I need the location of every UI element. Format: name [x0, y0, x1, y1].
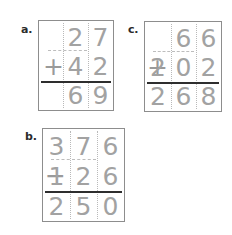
problem-b-operand-1-digit-0: 3: [43, 133, 70, 159]
problem-b-answer: 2 5 0: [43, 193, 124, 219]
problem-b-operand-1: 3 7 6: [43, 133, 124, 159]
problem-b-operand-2-digit-1: 2: [70, 163, 97, 189]
problem-b-operand-2-digit-2: 6: [97, 163, 124, 189]
problem-b: b. 3 7 6 − 1 2 6 2 5: [0, 0, 232, 235]
problem-b-operand-1-digit-1: 7: [70, 133, 97, 159]
problem-b-label: b.: [25, 131, 37, 142]
problem-b-answer-digit-2: 0: [97, 193, 124, 219]
problem-b-answer-digit-0: 2: [43, 193, 70, 219]
problem-b-answer-digit-1: 5: [70, 193, 97, 219]
problem-b-box: 3 7 6 − 1 2 6 2 5 0: [42, 128, 125, 222]
worksheet-page: a. 2 7 + 4 2 6: [0, 0, 232, 235]
problem-b-operand-1-digit-2: 6: [97, 133, 124, 159]
problem-b-operand-2-digit-0: 1: [43, 163, 70, 189]
problem-b-operand-2: 1 2 6: [43, 163, 124, 189]
